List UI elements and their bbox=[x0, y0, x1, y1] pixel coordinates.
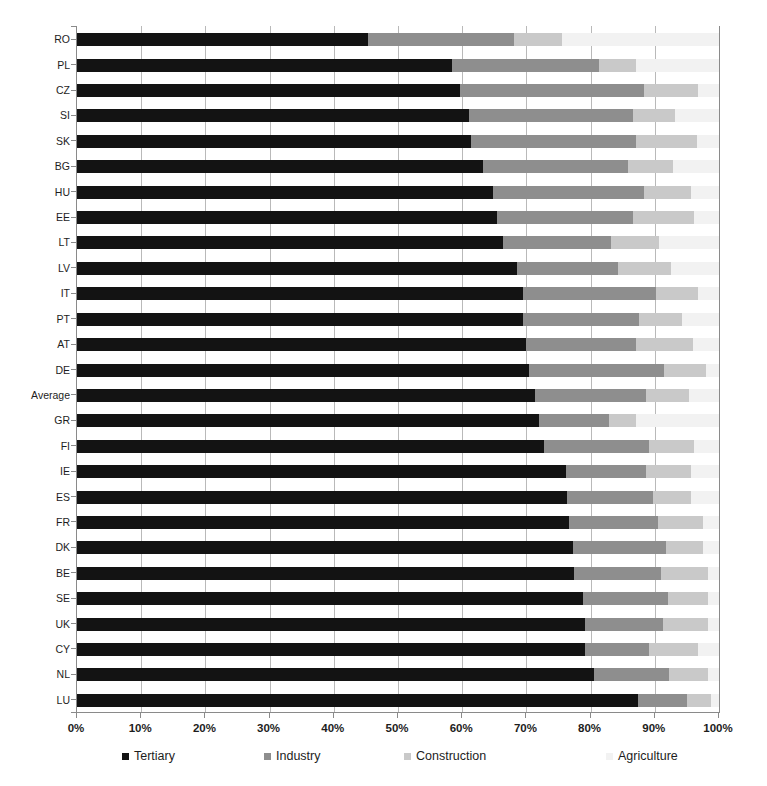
bar-row bbox=[77, 109, 719, 122]
y-axis-label-de: DE bbox=[0, 364, 70, 377]
x-axis-tick bbox=[525, 712, 526, 718]
legend-swatch-icon bbox=[404, 753, 411, 760]
x-axis-tick bbox=[461, 712, 462, 718]
x-axis-tick bbox=[204, 712, 205, 718]
x-axis-label-80pct: 80% bbox=[578, 721, 601, 735]
bar-row bbox=[77, 592, 719, 605]
bar-segment-industry bbox=[523, 287, 656, 300]
bar-segment-industry bbox=[573, 541, 665, 554]
bar-segment-tertiary bbox=[77, 643, 585, 656]
bar-segment-tertiary bbox=[77, 33, 368, 46]
bar-segment-agriculture bbox=[708, 618, 719, 631]
bar-segment-agriculture bbox=[562, 33, 719, 46]
bar-segment-agriculture bbox=[698, 84, 719, 97]
bar-segment-tertiary bbox=[77, 465, 566, 478]
y-axis-label-fi: FI bbox=[0, 440, 70, 453]
bar-segment-industry bbox=[452, 59, 599, 72]
bar-row bbox=[77, 694, 719, 707]
x-axis-tick bbox=[76, 712, 77, 718]
bar-segment-industry bbox=[567, 491, 653, 504]
bar-segment-construction bbox=[633, 211, 694, 224]
bar-segment-agriculture bbox=[691, 465, 719, 478]
y-axis-label-lu: LU bbox=[0, 694, 70, 707]
x-axis-tick-labels: 0%10%20%30%40%50%60%70%80%90%100% bbox=[0, 721, 767, 739]
bar-segment-agriculture bbox=[703, 516, 719, 529]
bar-segment-construction bbox=[644, 186, 691, 199]
bar-segment-construction bbox=[611, 236, 659, 249]
bar-row bbox=[77, 287, 719, 300]
bar-segment-agriculture bbox=[673, 160, 719, 173]
bar-segment-tertiary bbox=[77, 59, 452, 72]
bar-row bbox=[77, 516, 719, 529]
y-axis-category-labels: ROPLCZSISKBGHUEELTLVITPTATDEAverageGRFII… bbox=[0, 26, 70, 712]
bar-segment-agriculture bbox=[693, 338, 719, 351]
bar-segment-industry bbox=[585, 643, 649, 656]
bar-segment-construction bbox=[636, 338, 693, 351]
y-axis-label-pt: PT bbox=[0, 313, 70, 326]
bar-segment-tertiary bbox=[77, 84, 460, 97]
legend-label: Tertiary bbox=[134, 748, 175, 764]
y-axis-label-fr: FR bbox=[0, 516, 70, 529]
bar-segment-tertiary bbox=[77, 668, 594, 681]
bar-segment-tertiary bbox=[77, 135, 471, 148]
stacked-bar-chart: ROPLCZSISKBGHUEELTLVITPTATDEAverageGRFII… bbox=[0, 0, 767, 786]
x-axis-tick bbox=[140, 712, 141, 718]
bar-segment-agriculture bbox=[698, 287, 719, 300]
y-axis-label-bg: BG bbox=[0, 160, 70, 173]
bar-row bbox=[77, 313, 719, 326]
bar-segment-industry bbox=[544, 440, 649, 453]
bar-segment-tertiary bbox=[77, 364, 529, 377]
y-axis-label-sk: SK bbox=[0, 135, 70, 148]
bar-segment-industry bbox=[483, 160, 628, 173]
legend-swatch-icon bbox=[606, 753, 613, 760]
y-axis-label-cy: CY bbox=[0, 643, 70, 656]
x-axis-label-10pct: 10% bbox=[129, 721, 152, 735]
bar-row bbox=[77, 84, 719, 97]
bar-row bbox=[77, 262, 719, 275]
bar-row bbox=[77, 236, 719, 249]
bar-segment-construction bbox=[636, 135, 697, 148]
y-axis-label-si: SI bbox=[0, 109, 70, 122]
bar-segment-construction bbox=[646, 389, 689, 402]
bar-segment-industry bbox=[569, 516, 658, 529]
bar-row bbox=[77, 465, 719, 478]
bar-segment-tertiary bbox=[77, 236, 503, 249]
legend-item-industry[interactable]: Industry bbox=[264, 748, 320, 764]
legend-swatch-icon bbox=[264, 753, 271, 760]
bar-segment-construction bbox=[663, 618, 708, 631]
x-axis-label-50pct: 50% bbox=[385, 721, 408, 735]
bar-segment-agriculture bbox=[636, 414, 719, 427]
bar-segment-tertiary bbox=[77, 109, 469, 122]
y-axis-label-ro: RO bbox=[0, 33, 70, 46]
x-axis-label-70pct: 70% bbox=[514, 721, 537, 735]
y-axis-label-lt: LT bbox=[0, 236, 70, 249]
bar-segment-agriculture bbox=[694, 211, 719, 224]
bar-segment-agriculture bbox=[703, 541, 719, 554]
bar-segment-construction bbox=[658, 516, 703, 529]
bar-segment-construction bbox=[687, 694, 711, 707]
legend-item-tertiary[interactable]: Tertiary bbox=[122, 748, 175, 764]
bar-segment-tertiary bbox=[77, 516, 569, 529]
legend-item-construction[interactable]: Construction bbox=[404, 748, 486, 764]
bar-segment-construction bbox=[666, 541, 703, 554]
x-axis-tick bbox=[590, 712, 591, 718]
y-axis-label-lv: LV bbox=[0, 262, 70, 275]
bar-segment-tertiary bbox=[77, 541, 573, 554]
legend-item-agriculture[interactable]: Agriculture bbox=[606, 748, 678, 764]
bar-row bbox=[77, 389, 719, 402]
bar-segment-agriculture bbox=[698, 643, 719, 656]
bar-segment-tertiary bbox=[77, 389, 535, 402]
y-axis-label-es: ES bbox=[0, 491, 70, 504]
bar-segment-tertiary bbox=[77, 567, 574, 580]
bar-segment-agriculture bbox=[694, 440, 719, 453]
bar-segment-tertiary bbox=[77, 440, 544, 453]
x-axis-ticks bbox=[76, 712, 718, 718]
bar-segment-construction bbox=[628, 160, 673, 173]
y-axis-label-hu: HU bbox=[0, 186, 70, 199]
x-axis-tick bbox=[333, 712, 334, 718]
x-axis-tick bbox=[718, 712, 719, 718]
y-axis-label-se: SE bbox=[0, 592, 70, 605]
bar-segment-construction bbox=[668, 592, 708, 605]
bar-segment-industry bbox=[460, 84, 644, 97]
bar-segment-industry bbox=[368, 33, 514, 46]
